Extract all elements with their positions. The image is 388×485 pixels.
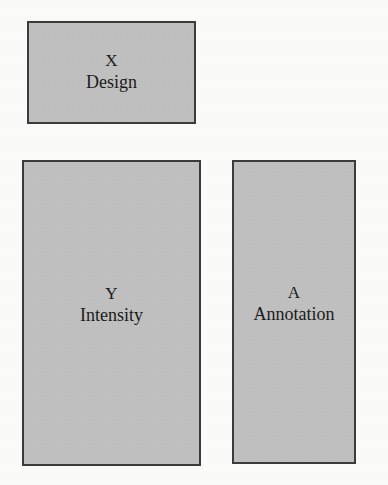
scanned-page: X Design Y Intensity A Annotation	[0, 0, 388, 485]
node-symbol-design: X	[105, 51, 117, 72]
node-label-intensity: Intensity	[80, 305, 143, 327]
diagram-node-design: X Design	[27, 21, 196, 124]
node-label-annotation: Annotation	[254, 304, 335, 326]
node-symbol-intensity: Y	[105, 284, 117, 305]
diagram-node-intensity: Y Intensity	[22, 160, 201, 466]
diagram-node-annotation: A Annotation	[232, 160, 356, 464]
node-label-design: Design	[86, 72, 137, 94]
node-symbol-annotation: A	[288, 283, 300, 304]
bleed-through-artifact-top	[18, 131, 370, 140]
